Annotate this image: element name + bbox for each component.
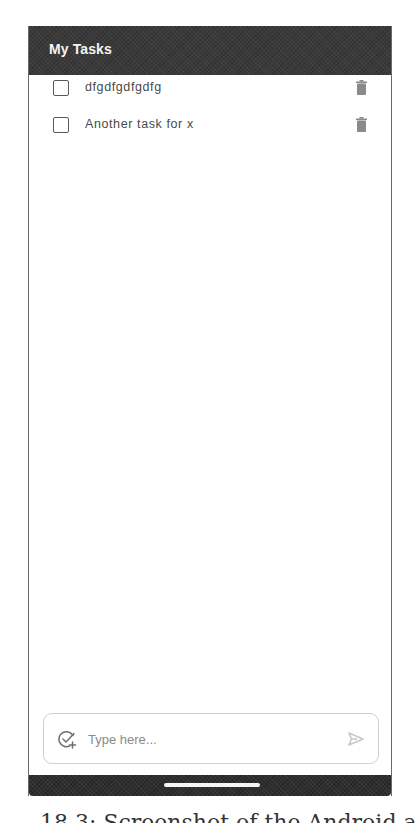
task-label: dfgdfgdfgdfg — [85, 80, 162, 94]
task-list: dfgdfgdfgdfg Another task for x — [29, 75, 391, 156]
task-input[interactable] — [88, 728, 338, 750]
phone-screen: My Tasks dfgdfgdfgdfg Another task for x — [28, 26, 392, 796]
task-checkbox[interactable] — [53, 80, 69, 96]
home-handle[interactable] — [164, 783, 260, 787]
task-composer — [43, 713, 379, 764]
task-checkbox[interactable] — [53, 117, 69, 133]
task-label: Another task for x — [85, 117, 194, 131]
send-icon[interactable] — [348, 731, 364, 747]
trash-icon[interactable] — [356, 80, 367, 95]
app-title: My Tasks — [49, 41, 112, 57]
task-item: dfgdfgdfgdfg — [29, 75, 391, 112]
system-nav-bar — [29, 775, 391, 796]
task-item: Another task for x — [29, 112, 391, 156]
page: My Tasks dfgdfgdfgdfg Another task for x — [0, 0, 417, 823]
add-task-icon[interactable] — [57, 729, 77, 749]
figure-caption: 18.3: Screenshot of the Android app disp… — [40, 809, 417, 823]
app-bar: My Tasks — [29, 26, 391, 75]
trash-icon[interactable] — [356, 117, 367, 132]
